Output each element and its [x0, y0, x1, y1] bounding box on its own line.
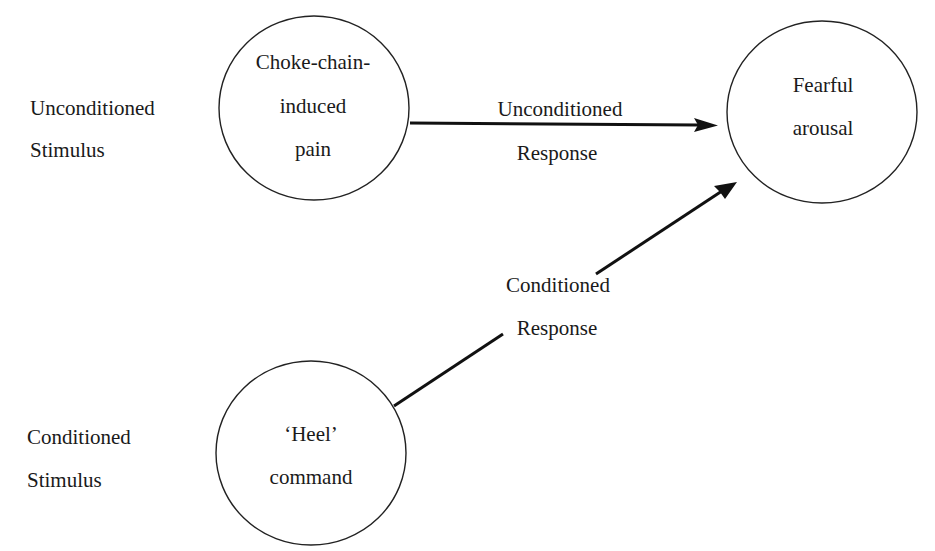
arrow-line [410, 123, 698, 125]
node-heel-command: ‘Heel’ command [216, 361, 406, 545]
node-line: Fearful [793, 73, 854, 97]
node-circle [216, 361, 406, 545]
node-line: pain [295, 137, 332, 161]
label-line: Unconditioned [30, 96, 155, 120]
node-fearful-arousal: Fearful arousal [727, 21, 917, 203]
edge-unconditioned-response: Unconditioned Response [410, 97, 718, 165]
conditioning-diagram: Unconditioned Stimulus Conditioned Stimu… [0, 0, 935, 551]
node-line: Choke-chain- [256, 50, 370, 74]
edge-label-line: Response [517, 141, 598, 165]
node-choke-chain-induced-pain: Choke-chain- induced pain [219, 16, 409, 200]
node-line: induced [280, 94, 347, 118]
edge-label-line: Response [517, 316, 598, 340]
edge-conditioned-response: Conditioned Response [394, 182, 737, 406]
edge-label-line: Conditioned [506, 273, 610, 297]
node-line: arousal [793, 116, 854, 140]
node-line: ‘Heel’ [284, 422, 338, 446]
label-line: Stimulus [30, 138, 105, 162]
arrow-line-lower [394, 334, 503, 406]
node-line: command [270, 465, 353, 489]
label-line: Conditioned [27, 425, 131, 449]
label-line: Stimulus [27, 468, 102, 492]
arrow-line-upper [596, 191, 722, 274]
node-circle [727, 21, 917, 203]
conditioned-stimulus-label: Conditioned Stimulus [27, 425, 131, 492]
edge-label-line: Unconditioned [498, 97, 623, 121]
unconditioned-stimulus-label: Unconditioned Stimulus [30, 96, 155, 162]
arrowhead-icon [714, 182, 737, 199]
